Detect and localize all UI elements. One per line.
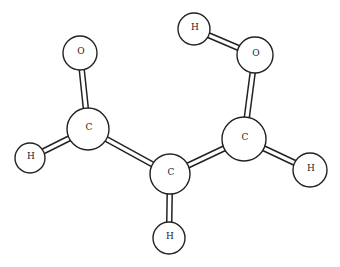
- atom-label: O: [77, 46, 84, 56]
- atom-o1: O: [63, 36, 97, 70]
- atom-c1: C: [67, 108, 109, 150]
- atom-c3: C: [222, 117, 266, 161]
- atom-label: H: [191, 22, 199, 32]
- atom-h1: H: [15, 143, 45, 173]
- atom-label: H: [166, 231, 174, 241]
- atom-label: O: [252, 48, 259, 58]
- atom-c2: C: [150, 154, 190, 194]
- atom-h4: H: [178, 13, 210, 45]
- atom-label: H: [307, 163, 315, 173]
- atom-label: C: [86, 122, 93, 132]
- atom-label: C: [242, 132, 249, 142]
- atom-label: C: [168, 167, 175, 177]
- atom-o2: O: [237, 37, 273, 73]
- atom-h3: H: [293, 153, 327, 187]
- atom-label: H: [27, 151, 35, 161]
- atom-h2: H: [153, 222, 185, 254]
- molecule-diagram: OCHCHCHOH: [0, 0, 340, 267]
